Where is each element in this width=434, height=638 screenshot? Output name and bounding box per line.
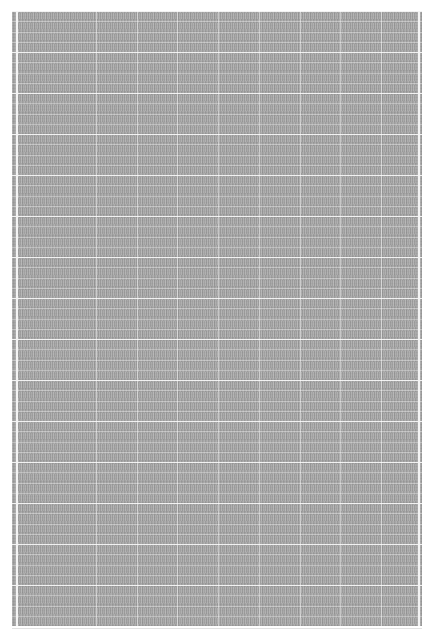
grid-row-text <box>18 372 416 378</box>
text-grid-sheet <box>12 11 422 626</box>
grid-row-text <box>18 177 416 183</box>
column-divider <box>16 11 18 626</box>
grid-row-text <box>18 526 416 532</box>
row-rule <box>12 247 422 248</box>
grid-row-text <box>18 136 416 142</box>
grid-row-text <box>18 597 416 603</box>
grid-row-text <box>18 485 416 491</box>
grid-row-text <box>18 300 416 306</box>
row-rule <box>12 606 422 607</box>
row-rule <box>12 216 422 217</box>
row-rule <box>12 390 422 391</box>
row-rule <box>12 544 422 545</box>
grid-row-text <box>18 157 416 163</box>
row-rule <box>12 93 422 94</box>
row-rule <box>12 226 422 227</box>
grid-row-text <box>18 208 416 214</box>
row-rule <box>12 134 422 135</box>
row-rule <box>12 380 422 381</box>
column-divider <box>300 11 301 626</box>
row-rule <box>12 114 422 115</box>
grid-row-text <box>18 515 416 521</box>
row-rule <box>12 493 422 494</box>
grid-row-text <box>18 505 416 511</box>
row-rule <box>12 308 422 309</box>
row-rule <box>12 144 422 145</box>
row-rule <box>12 62 422 63</box>
grid-row-text <box>18 218 416 224</box>
grid-row-text <box>18 75 416 81</box>
grid-row-text <box>18 44 416 50</box>
row-rule <box>12 595 422 596</box>
grid-row-text <box>18 474 416 480</box>
row-rule <box>12 83 422 84</box>
grid-row-text <box>18 95 416 101</box>
row-rule <box>12 513 422 514</box>
grid-row-text <box>18 618 416 624</box>
row-rule <box>12 185 422 186</box>
row-rule <box>12 370 422 371</box>
row-rule <box>12 401 422 402</box>
grid-row-text <box>18 433 416 439</box>
grid-row-text <box>18 198 416 204</box>
row-rule <box>12 534 422 535</box>
grid-row-text <box>18 167 416 173</box>
grid-row-text <box>18 228 416 234</box>
row-rule <box>12 298 422 299</box>
grid-row-text <box>18 116 416 122</box>
grid-row-text <box>18 556 416 562</box>
row-rule <box>12 124 422 125</box>
grid-row-text <box>18 321 416 327</box>
column-divider <box>96 11 97 626</box>
row-rule <box>12 462 422 463</box>
row-rule <box>12 360 422 361</box>
row-rule <box>12 349 422 350</box>
row-rule <box>12 585 422 586</box>
row-rule <box>12 165 422 166</box>
grid-row-text <box>18 290 416 296</box>
row-rule <box>12 288 422 289</box>
grid-row-text <box>18 85 416 91</box>
grid-row-text <box>18 54 416 60</box>
grid-row-text <box>18 382 416 388</box>
grid-row-text <box>18 269 416 275</box>
grid-row-text <box>18 567 416 573</box>
row-rule <box>12 267 422 268</box>
row-rule <box>12 616 422 617</box>
row-rule <box>12 32 422 33</box>
row-rule <box>12 339 422 340</box>
grid-row-text <box>18 464 416 470</box>
grid-row-text <box>18 34 416 40</box>
row-rule <box>12 524 422 525</box>
grid-row-text <box>18 444 416 450</box>
row-rule <box>12 565 422 566</box>
grid-row-text <box>18 341 416 347</box>
grid-row-text <box>18 351 416 357</box>
row-rule <box>12 483 422 484</box>
column-divider <box>340 11 341 626</box>
row-rule <box>12 472 422 473</box>
grid-row-text <box>18 495 416 501</box>
row-rule <box>12 421 422 422</box>
column-divider <box>418 11 420 626</box>
row-rule <box>12 319 422 320</box>
grid-row-text <box>18 105 416 111</box>
row-rule <box>12 21 422 22</box>
grid-row-text <box>18 64 416 70</box>
row-rule <box>12 411 422 412</box>
column-divider <box>259 11 260 626</box>
column-divider <box>381 11 382 626</box>
row-rule <box>12 278 422 279</box>
grid-row-text <box>18 546 416 552</box>
grid-row-text <box>18 126 416 132</box>
grid-row-text <box>18 536 416 542</box>
row-rule <box>12 103 422 104</box>
grid-row-text <box>18 392 416 398</box>
grid-row-text <box>18 23 416 29</box>
row-rule <box>12 73 422 74</box>
row-rule <box>12 42 422 43</box>
row-rule <box>12 442 422 443</box>
row-rule <box>12 452 422 453</box>
row-rule <box>12 431 422 432</box>
column-divider <box>177 11 178 626</box>
